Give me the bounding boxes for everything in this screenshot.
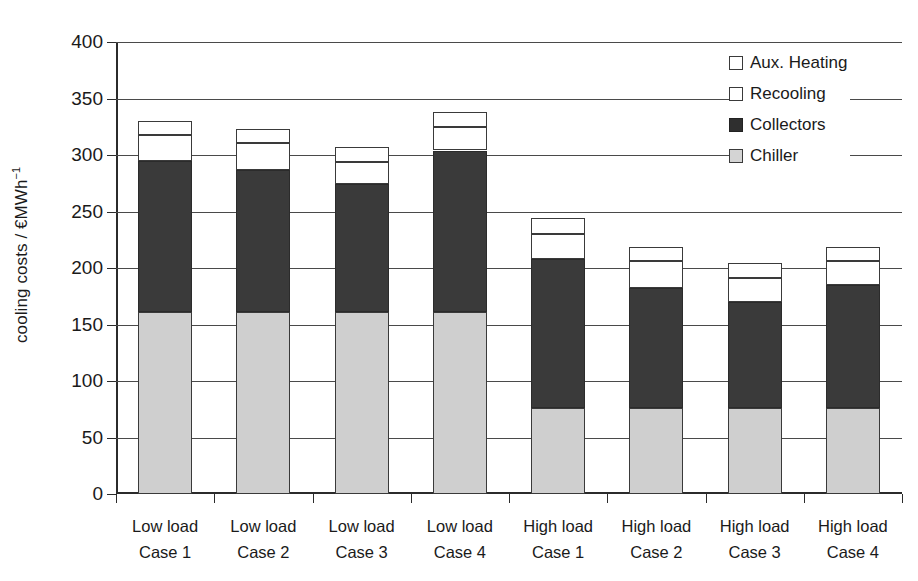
y-axis-tick (107, 381, 116, 382)
x-axis-tick (607, 494, 608, 503)
y-axis-title-text: cooling costs / €MWh (12, 180, 31, 344)
chart-figure: cooling costs / €MWh−1 05010015020025030… (0, 0, 918, 581)
bar-segment-collectors (826, 285, 880, 408)
x-axis-tick (902, 494, 903, 503)
y-axis-tick (107, 155, 116, 156)
y-axis-tick (107, 325, 116, 326)
bar-segment-collectors (728, 302, 782, 408)
y-axis-tick-label: 50 (82, 427, 103, 449)
x-axis-category-line: Case 2 (230, 540, 296, 566)
y-axis-tick-label: 100 (71, 370, 103, 392)
stacked-bar (531, 218, 585, 494)
stacked-bar (433, 112, 487, 494)
x-axis-category-line: Case 2 (622, 540, 692, 566)
legend-label: Recooling (750, 84, 826, 104)
chart-legend: Aux. HeatingRecoolingCollectorsChiller (729, 52, 850, 167)
x-axis-category-label: Low loadCase 3 (329, 514, 395, 565)
x-axis-category-label: High loadCase 2 (622, 514, 692, 565)
y-axis-title: cooling costs / €MWh−1 (0, 0, 42, 510)
x-axis-category-line: Case 1 (132, 540, 198, 566)
x-axis-category-line: High load (523, 514, 593, 540)
x-axis-category-line: Case 4 (427, 540, 493, 566)
x-axis-category-line: Low load (427, 514, 493, 540)
y-axis-tick (107, 268, 116, 269)
x-axis-category-line: Case 3 (720, 540, 790, 566)
stacked-bar (728, 263, 782, 494)
legend-label: Chiller (750, 146, 798, 166)
x-axis-category-line: Case 4 (818, 540, 888, 566)
bar-segment-chiller (826, 408, 880, 494)
gridline (116, 212, 902, 213)
bar-segment-collectors (236, 170, 290, 312)
x-axis-category-line: Low load (230, 514, 296, 540)
x-axis-category-line: High load (720, 514, 790, 540)
gridline (116, 42, 902, 43)
x-axis-tick (411, 494, 412, 503)
gridline (116, 438, 902, 439)
x-axis-category-line: High load (818, 514, 888, 540)
x-axis-category-label: High loadCase 1 (523, 514, 593, 565)
bar-segment-collectors (629, 288, 683, 408)
y-axis-tick-label: 200 (71, 257, 103, 279)
legend-item: Chiller (729, 145, 850, 167)
bar-segment-collectors (138, 161, 192, 312)
x-axis-tick (116, 494, 117, 503)
x-axis-category-line: Low load (329, 514, 395, 540)
x-axis-tick (509, 494, 510, 503)
bar-segment-chiller (531, 408, 585, 494)
bar-segment-recooling (629, 261, 683, 288)
bar-segment-recooling (433, 127, 487, 151)
y-axis-tick (107, 212, 116, 213)
gridline (116, 381, 902, 382)
y-axis-tick (107, 99, 116, 100)
bar-segment-aux-heating (629, 247, 683, 262)
legend-swatch-chiller-icon (729, 149, 743, 163)
bar-segment-collectors (335, 184, 389, 312)
x-axis-tick (313, 494, 314, 503)
bar-segment-aux-heating (433, 112, 487, 127)
gridline (116, 268, 902, 269)
x-axis-tick (214, 494, 215, 503)
bar-segment-recooling (531, 234, 585, 259)
y-axis-tick (107, 42, 116, 43)
bar-segment-aux-heating (236, 129, 290, 143)
legend-item: Recooling (729, 83, 850, 105)
y-axis-tick-label: 350 (71, 88, 103, 110)
legend-label: Collectors (750, 115, 826, 135)
bar-segment-chiller (236, 312, 290, 494)
x-axis-category-label: High loadCase 3 (720, 514, 790, 565)
bar-segment-chiller (728, 408, 782, 494)
bar-segment-chiller (335, 312, 389, 494)
legend-label: Aux. Heating (750, 53, 847, 73)
stacked-bar (335, 147, 389, 494)
y-axis-tick-label: 0 (92, 483, 103, 505)
x-axis-category-line: High load (622, 514, 692, 540)
gridline (116, 325, 902, 326)
bar-segment-recooling (826, 261, 880, 285)
stacked-bar (629, 247, 683, 494)
legend-swatch-collectors-icon (729, 118, 743, 132)
bar-segment-chiller (433, 312, 487, 494)
x-axis-category-line: Case 3 (329, 540, 395, 566)
bar-segment-recooling (335, 162, 389, 185)
x-axis-category-label: High loadCase 4 (818, 514, 888, 565)
bar-segment-recooling (236, 143, 290, 170)
legend-swatch-aux-icon (729, 56, 743, 70)
y-axis-tick-label: 250 (71, 201, 103, 223)
x-axis-category-line: Case 1 (523, 540, 593, 566)
y-axis-tick (107, 494, 116, 495)
bar-segment-aux-heating (335, 147, 389, 162)
bar-segment-recooling (138, 135, 192, 161)
y-axis-title-exponent: −1 (10, 167, 22, 180)
bar-segment-aux-heating (138, 121, 192, 135)
x-axis-category-line: Low load (132, 514, 198, 540)
legend-item: Collectors (729, 114, 850, 136)
bar-segment-recooling (728, 278, 782, 302)
stacked-bar (826, 247, 880, 494)
x-axis-tick (804, 494, 805, 503)
y-axis-tick-label: 400 (71, 31, 103, 53)
y-axis-tick (107, 438, 116, 439)
bar-segment-aux-heating (728, 263, 782, 278)
x-axis-category-label: Low loadCase 1 (132, 514, 198, 565)
x-axis-category-label: Low loadCase 4 (427, 514, 493, 565)
